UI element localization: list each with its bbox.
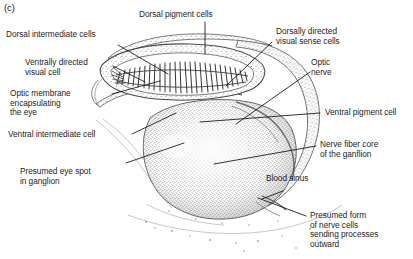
label-ventrally-directed-visual-cell: Ventrally directed visual cell bbox=[25, 58, 88, 77]
label-dorsal-pigment-cells: Dorsal pigment cells bbox=[139, 10, 213, 20]
label-ventral-intermediate-cell: Ventral intermediate cell bbox=[8, 130, 95, 140]
label-blood-sinus: Blood sinus bbox=[266, 174, 308, 184]
label-dorsal-intermediate-cells: Dorsal intermediate cells bbox=[6, 30, 96, 40]
label-optic-membrane-encapsulating-the-eye: Optic membrane encapsulating the eye bbox=[10, 89, 71, 118]
label-nerve-fiber-core-of-the-ganglion: Nerve fiber core of the ganflion bbox=[320, 140, 378, 159]
label-dorsally-directed-visual-sense-cells: Dorsally directed visual sense cells bbox=[276, 27, 340, 46]
label-optic-nerve: Optic nerve bbox=[311, 58, 332, 77]
label-presumed-form-of-nerve-cells: Presumed form of nerve cells sending pro… bbox=[310, 211, 378, 249]
label-presumed-eye-spot-in-ganglion: Presumed eye spot in ganglion bbox=[20, 167, 91, 186]
figure-panel-c: (c) bbox=[0, 0, 413, 259]
label-ventral-pigment-cell: Ventral pigment cell bbox=[325, 108, 396, 118]
